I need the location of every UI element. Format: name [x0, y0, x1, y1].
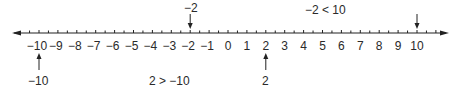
inequality-top-right: −2 < 10 [305, 4, 346, 16]
tick-label: 0 [225, 40, 232, 52]
marker-label-neg10: −10 [28, 75, 48, 87]
tick-label: −10 [27, 40, 47, 52]
tick-label: −5 [125, 40, 139, 52]
marker-label-neg2: −2 [184, 2, 198, 14]
tick-label: −7 [87, 40, 101, 52]
tick-label: 6 [338, 40, 345, 52]
tick-label: −2 [181, 40, 195, 52]
tick-label: 10 [410, 40, 423, 52]
marker-label-2: 2 [262, 75, 269, 87]
inequality-bottom-middle: 2 > −10 [149, 75, 190, 87]
number-line-axis [12, 30, 449, 36]
tick-label: 2 [262, 40, 269, 52]
tick-label: −4 [144, 40, 158, 52]
tick-label: −3 [162, 40, 176, 52]
tick-label: 5 [319, 40, 326, 52]
tick-label: −9 [49, 40, 63, 52]
tick-label: −6 [106, 40, 120, 52]
tick-label: 4 [300, 40, 307, 52]
tick-label: 3 [281, 40, 288, 52]
tick-label: −8 [68, 40, 82, 52]
tick-label: 8 [376, 40, 383, 52]
tick-label: −1 [200, 40, 214, 52]
tick-label: 7 [357, 40, 364, 52]
tick-label: 1 [244, 40, 251, 52]
tick-label: 9 [395, 40, 402, 52]
